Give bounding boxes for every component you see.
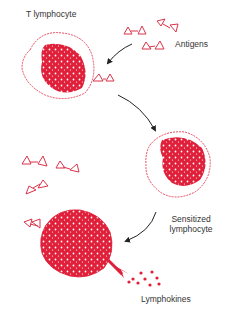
arrow-sensitized-to-active — [126, 212, 156, 241]
lymphokines-label: Lymphokines — [141, 294, 191, 304]
sensitized-lymphocyte-label: Sensitized lymphocyte — [164, 214, 218, 234]
sensitized-label-line1: Sensitized — [164, 214, 218, 224]
lymphokine-dots — [127, 270, 160, 286]
antigens-label: Antigens — [175, 39, 208, 49]
sensitized-label-line2: lymphocyte — [164, 224, 218, 234]
t-lymphocyte-cell — [22, 33, 94, 99]
antigen-bound-cell1 — [93, 74, 114, 81]
arrow-to-sensitized — [118, 95, 155, 130]
arrow-antigen-to-cell — [108, 44, 132, 63]
active-lymphocyte-cell — [32, 210, 112, 277]
sensitized-lymphocyte-cell — [146, 132, 210, 197]
t-lymphocyte-label: T lymphocyte — [26, 9, 76, 19]
